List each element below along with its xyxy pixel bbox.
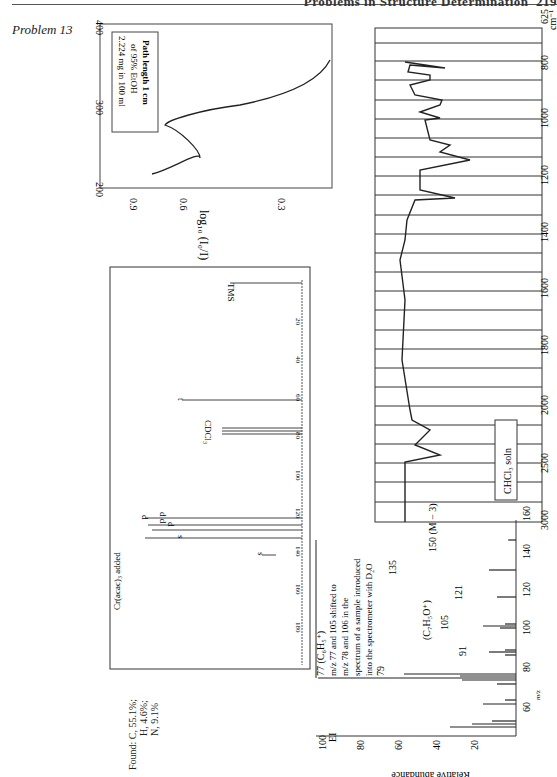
svg-text:Relative abundance: Relative abundance xyxy=(391,770,470,777)
svg-text:150 (M − 3): 150 (M − 3) xyxy=(427,503,439,552)
svg-text:80: 80 xyxy=(355,740,366,750)
svg-text:(C₇H₅O⁺): (C₇H₅O⁺) xyxy=(421,600,433,640)
svg-text:80: 80 xyxy=(521,662,532,672)
svg-text:m/z: m/z xyxy=(534,690,542,700)
svg-text:100: 100 xyxy=(521,620,532,635)
svg-text:120: 120 xyxy=(521,582,532,597)
svg-text:79: 79 xyxy=(375,666,386,676)
svg-text:91: 91 xyxy=(457,646,468,656)
svg-text:into the spectrometer with D₂O: into the spectrometer with D₂O xyxy=(364,563,374,676)
svg-text:140: 140 xyxy=(521,544,532,559)
svg-text:105: 105 xyxy=(439,615,450,630)
svg-text:60: 60 xyxy=(521,702,532,712)
svg-text:40: 40 xyxy=(431,740,442,750)
svg-text:60: 60 xyxy=(393,740,404,750)
svg-text:20: 20 xyxy=(469,740,480,750)
svg-text:160: 160 xyxy=(521,506,532,521)
svg-text:EI: EI xyxy=(327,733,338,742)
svg-text:spectrum of a sample introduce: spectrum of a sample introduced xyxy=(352,558,362,676)
svg-text:135: 135 xyxy=(387,560,398,575)
svg-text:m/z 77 and 105 shifted to: m/z 77 and 105 shifted to xyxy=(328,584,338,676)
svg-text:77 (C₆H₅⁺): 77 (C₆H₅⁺) xyxy=(315,631,327,676)
svg-text:m/z 78 and 106 in the: m/z 78 and 106 in the xyxy=(340,598,350,676)
svg-text:121: 121 xyxy=(453,585,464,600)
ms-plot: 100 80 60 40 20 EI Relative abundance 60… xyxy=(0,0,557,777)
